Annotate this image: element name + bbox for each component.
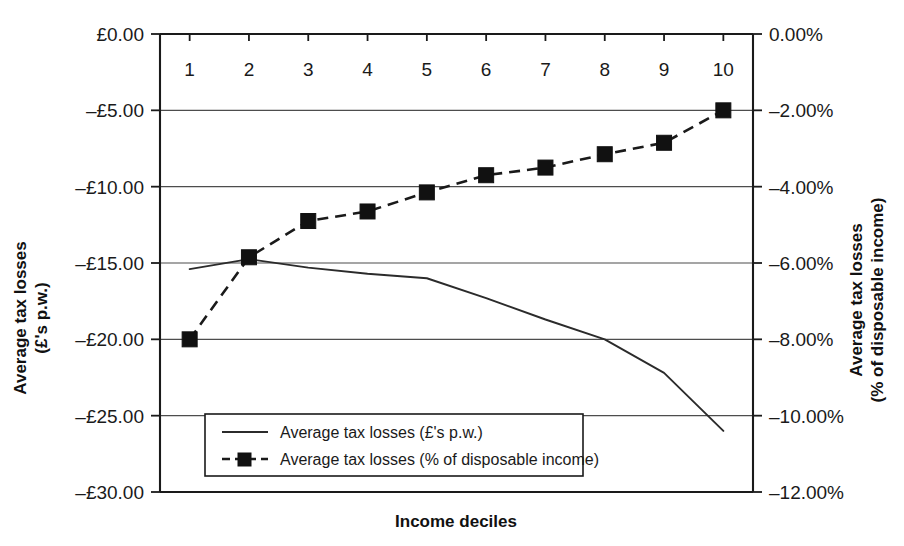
left-axis-title-line2: (£'s p.w.) bbox=[32, 282, 51, 353]
left-axis-tick-label: –£15.00 bbox=[75, 253, 144, 274]
x-axis-category-label: 8 bbox=[599, 59, 610, 80]
right-axis-tick-label: 0.00% bbox=[769, 24, 823, 45]
data-point-marker bbox=[479, 168, 494, 183]
data-point-marker bbox=[301, 214, 316, 229]
data-point-marker bbox=[419, 185, 434, 200]
x-axis-category-label: 1 bbox=[184, 59, 195, 80]
right-axis-tick-label: –2.00% bbox=[769, 100, 834, 121]
x-axis-category-label: 6 bbox=[481, 59, 492, 80]
data-point-marker bbox=[182, 332, 197, 347]
data-point-marker bbox=[657, 135, 672, 150]
right-axis-tick-label: –8.00% bbox=[769, 329, 834, 350]
left-axis-title-line1: Average tax losses bbox=[11, 241, 30, 394]
data-point-marker bbox=[538, 160, 553, 175]
x-axis-title: Income deciles bbox=[395, 512, 517, 531]
right-axis-title-line2: (% of disposable income) bbox=[868, 198, 887, 403]
tax-losses-dual-axis-chart: £0.00–£5.00–£10.00–£15.00–£20.00–£25.00–… bbox=[0, 0, 904, 546]
x-axis-category-label: 5 bbox=[422, 59, 433, 80]
left-axis-tick-label: –£10.00 bbox=[75, 177, 144, 198]
left-axis-tick-label: –£30.00 bbox=[75, 482, 144, 503]
legend-label-pounds: Average tax losses (£'s p.w.) bbox=[280, 424, 483, 441]
data-point-marker bbox=[597, 147, 612, 162]
legend-label-percent: Average tax losses (% of disposable inco… bbox=[280, 451, 599, 468]
left-axis-tick-label: £0.00 bbox=[96, 24, 144, 45]
x-axis-category-label: 9 bbox=[659, 59, 670, 80]
x-axis-category-label: 4 bbox=[362, 59, 373, 80]
left-axis-tick-label: –£25.00 bbox=[75, 406, 144, 427]
right-axis-tick-label: –10.00% bbox=[769, 406, 844, 427]
data-point-marker bbox=[360, 204, 375, 219]
left-axis-tick-label: –£20.00 bbox=[75, 329, 144, 350]
x-axis-category-label: 2 bbox=[244, 59, 255, 80]
right-axis-tick-label: –6.00% bbox=[769, 253, 834, 274]
chart-legend: Average tax losses (£'s p.w.) Average ta… bbox=[205, 414, 599, 476]
data-point-marker bbox=[716, 103, 731, 118]
data-point-marker bbox=[241, 250, 256, 265]
x-axis-category-label: 10 bbox=[713, 59, 734, 80]
right-axis-tick-label: –4.00% bbox=[769, 177, 834, 198]
x-axis-category-label: 3 bbox=[303, 59, 314, 80]
legend-swatch-square-marker bbox=[238, 453, 251, 466]
right-axis-title-line1: Average tax losses bbox=[847, 223, 866, 376]
x-axis-category-label: 7 bbox=[540, 59, 551, 80]
right-axis-tick-label: –12.00% bbox=[769, 482, 844, 503]
left-axis-tick-label: –£5.00 bbox=[86, 100, 144, 121]
chart-figure: £0.00–£5.00–£10.00–£15.00–£20.00–£25.00–… bbox=[0, 0, 904, 546]
